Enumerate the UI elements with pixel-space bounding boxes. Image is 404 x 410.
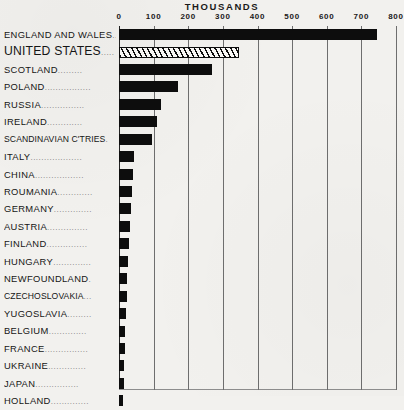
bar-ireland [119, 116, 157, 127]
bar-row: BELGIUM.............. [0, 322, 404, 339]
bar-row: GERMANY.............. [0, 200, 404, 217]
bar-row: IRELAND............. [0, 113, 404, 130]
bar-ukraine [119, 360, 124, 371]
bar-japan [119, 378, 124, 389]
bar-russia [119, 99, 161, 110]
bar-china [119, 169, 133, 180]
bar-row: FRANCE................ [0, 340, 404, 357]
bar-united-states [119, 47, 239, 58]
x-tick-label-200: 200 [180, 12, 196, 21]
x-tick-label-100: 100 [146, 12, 162, 21]
leader-dots: .............. [53, 258, 91, 267]
leader-dots: . [88, 275, 91, 284]
bar-finland [119, 238, 129, 249]
leader-dots: ......... [67, 310, 92, 319]
bar-yugoslavia [119, 308, 126, 319]
bar-newfoundland [119, 273, 127, 284]
category-name: NEWFOUNDLAND [4, 273, 88, 284]
leader-dots: ... [84, 292, 92, 301]
bar-row: NEWFOUNDLAND. [0, 270, 404, 287]
bar-italy [119, 151, 134, 162]
bar-row: SCOTLAND......... [0, 61, 404, 78]
bar-row: JAPAN................ [0, 375, 404, 392]
bar-england-and-wales [119, 29, 377, 40]
bar-poland [119, 81, 178, 92]
bar-scotland [119, 64, 212, 75]
bar-row: POLAND................. [0, 78, 404, 95]
category-name: CZECHOSLOVAKIA [4, 291, 84, 301]
leader-dots: ................. [45, 83, 91, 92]
leader-dots: ................ [41, 101, 85, 110]
category-name: JAPAN [4, 378, 35, 389]
row-label-austria: AUSTRIA............... [4, 218, 116, 235]
category-name: ROUMANIA [4, 186, 57, 197]
row-label-ukraine: UKRAINE.............. [4, 357, 116, 374]
x-tick-label-600: 600 [319, 12, 335, 21]
bar-row: CHINA.................. [0, 166, 404, 183]
category-name: UNITED STATES [4, 44, 101, 58]
category-name: CHINA [4, 169, 35, 180]
leader-dots: ................ [45, 345, 89, 354]
row-label-ireland: IRELAND............. [4, 113, 116, 130]
x-tick-label-0: 0 [116, 12, 121, 21]
row-label-japan: JAPAN................ [4, 375, 116, 392]
category-name: RUSSIA [4, 99, 41, 110]
leader-dots: ............... [47, 240, 88, 249]
leader-dots: . [105, 135, 108, 144]
bar-row: ROUMANIA............. [0, 183, 404, 200]
bar-roumania [119, 186, 132, 197]
x-tick-label-500: 500 [284, 12, 300, 21]
x-tick-label-700: 700 [354, 12, 370, 21]
row-label-china: CHINA.................. [4, 166, 116, 183]
bar-austria [119, 221, 130, 232]
bar-row: FINLAND............... [0, 235, 404, 252]
row-label-newfoundland: NEWFOUNDLAND. [4, 270, 116, 287]
leader-dots: .............. [48, 362, 86, 371]
bar-row: YUGOSLAVIA......... [0, 305, 404, 322]
category-name: UKRAINE [4, 360, 48, 371]
x-tick-label-400: 400 [250, 12, 266, 21]
leader-dots: ................ [35, 380, 79, 389]
row-label-france: FRANCE................ [4, 340, 116, 357]
category-name: BELGIUM [4, 325, 49, 336]
bar-row: SCANDINAVIAN C'TRIES. [0, 131, 404, 148]
bar-france [119, 343, 125, 354]
leader-dots: ............. [47, 118, 82, 127]
bar-hungary [119, 256, 128, 267]
category-name: AUSTRIA [4, 221, 47, 232]
row-label-scandinavian-c-tries: SCANDINAVIAN C'TRIES. [4, 131, 116, 148]
row-label-hungary: HUNGARY.............. [4, 253, 116, 270]
category-name: SCANDINAVIAN C'TRIES [4, 134, 105, 144]
row-label-russia: RUSSIA................ [4, 96, 116, 113]
bar-germany [119, 203, 131, 214]
category-name: ITALY [4, 151, 30, 162]
row-label-england-and-wales: ENGLAND AND WALES.. [4, 26, 116, 43]
bar-czechoslovakia [119, 291, 127, 302]
bar-row: ENGLAND AND WALES.. [0, 26, 404, 43]
category-name: HOLLAND [4, 395, 51, 406]
leader-dots: .............. [54, 205, 92, 214]
bar-row: UKRAINE.............. [0, 357, 404, 374]
bar-row: UNITED STATES..... [0, 43, 404, 60]
row-label-czechoslovakia: CZECHOSLOVAKIA... [4, 288, 116, 305]
row-label-belgium: BELGIUM.............. [4, 322, 116, 339]
bar-row: HOLLAND.............. [0, 392, 404, 409]
leader-dots: .. [112, 31, 116, 40]
row-label-italy: ITALY................... [4, 148, 116, 165]
leader-dots: ..... [101, 48, 115, 57]
category-name: YUGOSLAVIA [4, 308, 67, 319]
row-label-yugoslavia: YUGOSLAVIA......... [4, 305, 116, 322]
row-label-germany: GERMANY.............. [4, 200, 116, 217]
leader-dots: .............. [49, 327, 87, 336]
chart-title: THOUSANDS [0, 1, 404, 12]
leader-dots: .................. [35, 171, 84, 180]
category-name: POLAND [4, 81, 45, 92]
leader-dots: ............. [57, 188, 92, 197]
category-name: FRANCE [4, 343, 45, 354]
leader-dots: .............. [51, 397, 89, 406]
bar-holland [119, 395, 123, 406]
category-name: FINLAND [4, 238, 47, 249]
bar-row: HUNGARY.............. [0, 253, 404, 270]
row-label-scotland: SCOTLAND......... [4, 61, 116, 78]
